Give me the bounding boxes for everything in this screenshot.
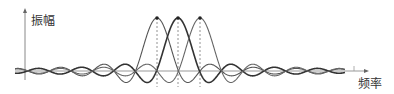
- ofdm-spectrum-diagram: 振幅 频率: [0, 0, 394, 94]
- spectrum-plot: [0, 0, 394, 94]
- subcarrier-curves: [15, 18, 345, 83]
- peak-dot-icon: [176, 16, 180, 20]
- x-axis-arrow-icon: [364, 69, 369, 73]
- y-axis-arrow-icon: [23, 8, 27, 13]
- peak-markers: [155, 16, 202, 20]
- y-axis-label: 振幅: [31, 11, 55, 28]
- subcarrier-curve-2: [15, 18, 345, 83]
- peak-dot-icon: [198, 16, 202, 20]
- peak-dot-icon: [155, 16, 159, 20]
- x-axis-label: 频率: [358, 74, 382, 91]
